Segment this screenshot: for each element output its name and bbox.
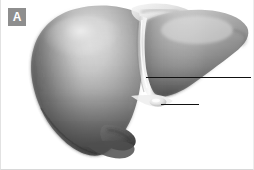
left-lobe-sheen: [161, 16, 233, 44]
liver-illustration: [1, 0, 254, 170]
right-lobe-sheen: [41, 16, 129, 76]
figure-panel: A: [0, 0, 254, 170]
gallbladder-pointer: [161, 104, 199, 105]
left-lobe-group: [143, 10, 249, 97]
falciform-ligament-pointer: [146, 77, 251, 78]
right-lobe-tail: [87, 141, 135, 159]
gallbladder-fundus-highlight: [152, 99, 160, 103]
panel-label-badge: A: [8, 8, 26, 26]
